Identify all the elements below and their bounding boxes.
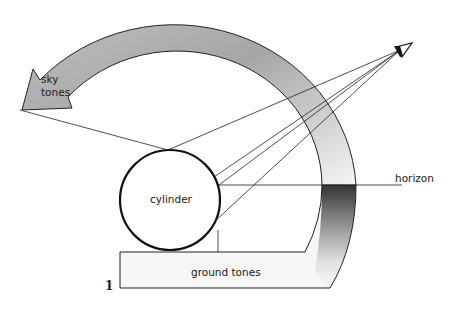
ground-tones-label: ground tones [191, 266, 261, 278]
eye-icon [394, 43, 412, 57]
figure-number: 1 [105, 279, 113, 293]
tone-diagram: sky tones cylinder horizon ground tones … [0, 0, 455, 309]
sky-label-line2: tones [41, 86, 70, 98]
horizon-label: horizon [395, 172, 434, 184]
sky-label-line1: sky [41, 73, 58, 85]
cylinder-label: cylinder [150, 193, 193, 205]
